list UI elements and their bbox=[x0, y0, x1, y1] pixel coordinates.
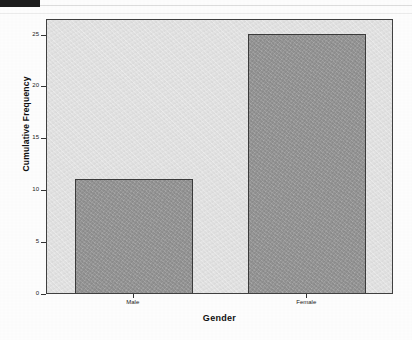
x-axis-title: Gender bbox=[46, 313, 393, 323]
plot-area bbox=[46, 19, 393, 294]
y-axis-tick: 5 bbox=[0, 242, 46, 243]
y-axis-tick-label: 10 bbox=[32, 185, 39, 194]
x-axis-tick bbox=[133, 294, 134, 298]
y-axis-tick-mark bbox=[41, 294, 46, 295]
page-canvas: Cumulative Frequency 0510152025 MaleFema… bbox=[0, 0, 412, 340]
y-axis-tick: 10 bbox=[0, 190, 46, 191]
bar-female bbox=[248, 34, 366, 293]
y-axis-tick-label: 0 bbox=[36, 289, 39, 298]
y-axis-tick: 25 bbox=[0, 35, 46, 36]
y-axis-tick-label: 20 bbox=[32, 81, 39, 90]
bar-chart: Cumulative Frequency 0510152025 MaleFema… bbox=[0, 0, 412, 340]
y-axis-tick-label: 25 bbox=[32, 30, 39, 39]
y-axis-title: Cumulative Frequency bbox=[21, 54, 31, 194]
y-axis-tick-label: 15 bbox=[32, 133, 39, 142]
y-axis-tick: 15 bbox=[0, 138, 46, 139]
x-axis-label-female: Female bbox=[261, 299, 351, 305]
bar-male bbox=[75, 179, 193, 293]
x-axis-tick bbox=[306, 294, 307, 298]
x-axis-label-male: Male bbox=[88, 299, 178, 305]
y-axis-tick: 0 bbox=[0, 294, 46, 295]
y-axis-tick: 20 bbox=[0, 86, 46, 87]
y-axis-tick-label: 5 bbox=[36, 237, 39, 246]
